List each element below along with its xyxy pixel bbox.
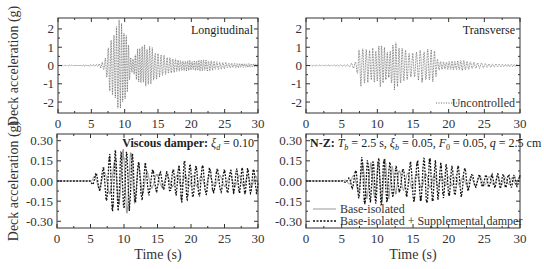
x-tick-label: 20	[442, 116, 455, 131]
x-tick-label: 15	[407, 231, 420, 246]
annotation-viscous-damper: Viscous damper: ξd = 0.10	[122, 136, 254, 152]
y-tick-label: 0.00	[279, 174, 302, 189]
x-tick-label: 30	[514, 116, 527, 131]
panel-n-z: 0510152025300.300.150.00-0.15-0.30	[275, 133, 527, 246]
annotation-n-z-parameters: N-Z: Tb = 2.5 s, ξb = 0.05, F0 = 0.05, q…	[310, 136, 542, 152]
y-axis-title-top: Deck acceleration (g)	[6, 5, 22, 126]
y-tick-label: 0	[48, 58, 55, 73]
x-tick-label: 20	[442, 231, 455, 246]
x-tick-label: 5	[338, 116, 345, 131]
y-tick-label: -2	[291, 95, 302, 110]
x-tick-label: 0	[55, 116, 62, 131]
x-tick-label: 10	[371, 116, 384, 131]
x-tick-label: 10	[118, 231, 131, 246]
series-base-isolated-supplemental-damper	[306, 157, 520, 204]
x-tick-label: 30	[514, 231, 527, 246]
y-tick-label: 0.30	[30, 133, 53, 148]
y-tick-label: 0.15	[279, 153, 302, 168]
x-tick-label: 25	[478, 116, 491, 131]
x-tick-label: 30	[252, 231, 265, 246]
x-tick-label: 15	[407, 116, 420, 131]
y-tick-label: 1	[48, 40, 55, 55]
figure: Deck acceleration (g) Deck acceleration …	[0, 0, 544, 269]
y-axis-title-bottom: Deck acceleration (g)	[6, 120, 22, 241]
x-tick-label: 5	[87, 231, 94, 246]
legend-label-uncontrolled: Uncontrolled	[452, 96, 515, 110]
x-tick-label: 25	[218, 231, 231, 246]
y-tick-label: -0.30	[275, 214, 302, 229]
y-tick-label: 0	[296, 58, 303, 73]
y-tick-label: -1	[43, 76, 54, 91]
y-tick-label: 0.15	[30, 153, 53, 168]
x-tick-label: 25	[478, 231, 491, 246]
x-tick-label: 5	[88, 116, 95, 131]
x-tick-label: 20	[185, 231, 198, 246]
x-tick-label: 30	[252, 116, 265, 131]
legend-uncontrolled: Uncontrolled	[436, 96, 515, 110]
y-tick-label: 0.30	[279, 133, 302, 148]
panel-title-longitudinal: Longitudinal	[191, 23, 254, 37]
panel-title-transverse: Transverse	[463, 23, 515, 37]
x-tick-label: 15	[152, 116, 165, 131]
y-tick-label: -0.15	[26, 194, 53, 209]
y-tick-label: 1	[296, 40, 303, 55]
series-uncontrolled	[306, 43, 520, 90]
x-axis-title-left: Time (s)	[134, 247, 182, 263]
y-tick-label: -2	[43, 95, 54, 110]
y-tick-label: -1	[291, 76, 302, 91]
y-tick-label: 2	[296, 21, 303, 36]
x-tick-label: 25	[218, 116, 231, 131]
y-tick-label: 0.00	[30, 174, 53, 189]
x-tick-label: 0	[303, 231, 310, 246]
x-tick-label: 0	[303, 116, 310, 131]
x-tick-label: 0	[54, 231, 61, 246]
y-tick-label: 2	[48, 21, 55, 36]
panel-viscous-damper: 0510152025300.300.150.00-0.15-0.30	[26, 133, 265, 246]
x-tick-label: 20	[185, 116, 198, 131]
legend-label-supplemental-damper: Base-isolated + Supplemental damper	[340, 214, 522, 228]
x-tick-label: 10	[371, 231, 384, 246]
y-tick-label: -0.30	[26, 214, 53, 229]
x-axis-title-right: Time (s)	[389, 247, 437, 263]
y-tick-label: -0.15	[275, 194, 302, 209]
x-tick-label: 5	[338, 231, 345, 246]
x-tick-label: 15	[151, 231, 164, 246]
x-tick-label: 10	[118, 116, 131, 131]
legend-bottom-right: Base-isolated Base-isolated + Supplement…	[313, 202, 522, 228]
